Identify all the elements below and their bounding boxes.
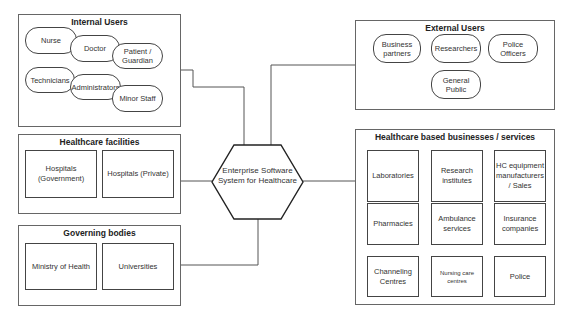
node-hospitals-private[interactable]: Hospitals (Private) [102,150,174,198]
node-pharmacies[interactable]: Pharmacies [367,203,419,245]
node-universities[interactable]: Universities [102,243,174,290]
node-minor-staff[interactable]: Minor Staff [112,85,163,112]
center-label-line1: Enterprise Software [212,166,303,176]
node-channeling-centres[interactable]: Channeling Centres [367,256,419,297]
node-hospitals-government[interactable]: Hospitals (Government) [25,150,97,198]
external-users-title: External Users [356,23,554,33]
node-police-officers[interactable]: Police Officers [488,34,538,63]
node-technicians[interactable]: Technicians [25,67,75,93]
node-researchers[interactable]: Researchers [431,34,481,63]
node-laboratories[interactable]: Laboratories [367,150,419,202]
node-insurance-companies[interactable]: Insurance companies [494,203,546,245]
node-ambulance-services[interactable]: Ambulance services [431,203,483,245]
governing-bodies-title: Governing bodies [19,228,180,238]
node-ministry-of-health[interactable]: Ministry of Health [25,243,97,290]
center-label-line2: System for Healthcare [212,176,303,186]
node-nursing-care-centres[interactable]: Nursing care centres [431,256,483,297]
node-general-public[interactable]: General Public [431,70,481,99]
healthcare-facilities-title: Healthcare facilities [19,137,180,147]
node-hc-equipment[interactable]: HC equipment manufacturers / Sales [494,150,546,202]
center-system-label[interactable]: Enterprise Software System for Healthcar… [212,166,303,186]
healthcare-businesses-title: Healthcare based businesses / services [356,132,554,142]
internal-users-title: Internal Users [19,17,180,27]
node-police[interactable]: Police [494,256,546,297]
node-research-institutes[interactable]: Research institutes [431,150,483,202]
node-patient-guardian[interactable]: Patient / Guardian [112,43,163,69]
node-business-partners[interactable]: Business partners [373,34,421,63]
